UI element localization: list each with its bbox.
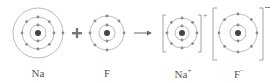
- sodium-ion-label: Na+: [175, 67, 192, 80]
- right-bracket: [259, 8, 263, 60]
- nucleus: [179, 30, 185, 36]
- nucleus: [104, 30, 110, 36]
- fluorine-atom: [89, 15, 126, 52]
- fluoride-ion-label: F−: [234, 67, 244, 80]
- fluorine-label: F: [104, 67, 110, 79]
- left-bracket: [163, 15, 166, 52]
- reaction-arrow: [134, 31, 152, 36]
- left-bracket: [213, 8, 217, 60]
- sodium-atom: [13, 8, 64, 58]
- plus-sign: [72, 28, 82, 38]
- nucleus: [35, 30, 41, 36]
- sodium-ion: +: [163, 11, 208, 52]
- sodium-label: Na: [32, 67, 45, 79]
- right-bracket: [198, 15, 201, 52]
- ion-charge-plus: +: [203, 11, 208, 20]
- ion-charge-minus: [265, 7, 270, 8]
- nucleus: [235, 30, 241, 36]
- fluoride-ion: [213, 7, 270, 60]
